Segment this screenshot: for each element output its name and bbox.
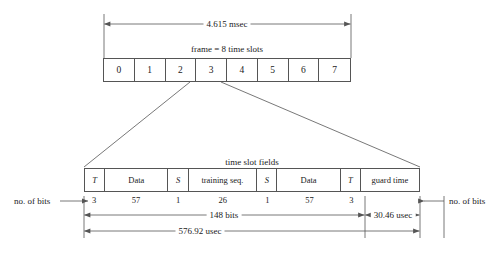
- bit-count-5: 57: [305, 196, 314, 205]
- field-cell-guard-time: guard time: [361, 169, 419, 191]
- bit-count-3: 26: [219, 196, 228, 205]
- frame-caption: frame = 8 time slots: [191, 44, 263, 54]
- field-cell-data: Data: [105, 169, 168, 191]
- bit-count-6: 3: [349, 196, 353, 205]
- bit-count-2: 1: [176, 196, 180, 205]
- frame-slot-4[interactable]: 4: [227, 59, 258, 81]
- timeslot-field-table: TDataStraining seq.SDataTguard time: [84, 168, 420, 192]
- field-cell-s: S: [257, 169, 277, 191]
- frame-slot-1[interactable]: 1: [135, 59, 166, 81]
- field-cell-data: Data: [277, 169, 340, 191]
- frame-slot-5[interactable]: 5: [258, 59, 289, 81]
- field-cell-training-seq: training seq.: [189, 169, 258, 191]
- field-cell-t: T: [85, 169, 105, 191]
- bit-count-0: 3: [92, 196, 96, 205]
- frame-slot-0[interactable]: 0: [104, 59, 135, 81]
- no-of-bits-label-left: no. of bits: [14, 196, 50, 206]
- guard-time-duration-label: 30.46 usec: [371, 210, 416, 220]
- no-of-bits-label-right: no. of bits: [449, 196, 485, 206]
- frame-slot-6[interactable]: 6: [289, 59, 320, 81]
- frame-slot-7[interactable]: 7: [319, 59, 350, 81]
- bit-count-1: 57: [132, 196, 141, 205]
- field-cell-s: S: [168, 169, 188, 191]
- figure-canvas: 4.615 msec frame = 8 time slots 01234567…: [0, 0, 488, 253]
- frame-slot-3[interactable]: 3: [196, 59, 227, 81]
- bit-count-4: 1: [265, 196, 269, 205]
- timeslot-caption: time slot fields: [225, 157, 279, 167]
- total-slot-duration-label: 576.92 usec: [176, 226, 225, 236]
- frame-slot-table: 01234567: [103, 58, 351, 82]
- payload-bits-label: 148 bits: [207, 210, 242, 220]
- frame-duration-label: 4.615 msec: [204, 19, 251, 29]
- field-cell-t: T: [341, 169, 361, 191]
- frame-slot-2[interactable]: 2: [166, 59, 197, 81]
